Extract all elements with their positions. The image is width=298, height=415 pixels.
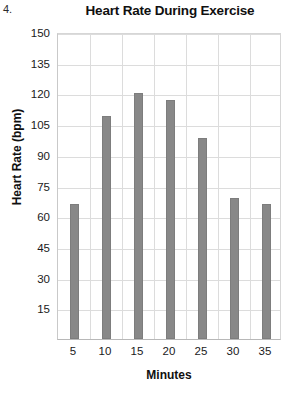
x-tick-label: 5 bbox=[58, 345, 88, 357]
bar bbox=[134, 93, 143, 339]
bar bbox=[102, 116, 111, 339]
y-tick-label: 60 bbox=[6, 211, 50, 223]
y-tick-label: 105 bbox=[6, 119, 50, 131]
x-tick-label: 10 bbox=[90, 345, 120, 357]
x-axis-label: Minutes bbox=[57, 368, 281, 382]
y-tick-label: 150 bbox=[6, 27, 50, 39]
chart-title: Heart Rate During Exercise bbox=[50, 3, 290, 18]
y-tick-label: 15 bbox=[6, 303, 50, 315]
bar bbox=[230, 198, 239, 339]
plot-area bbox=[57, 33, 281, 340]
y-tick-label: 120 bbox=[6, 88, 50, 100]
y-tick-label: 135 bbox=[6, 58, 50, 70]
y-tick-label: 30 bbox=[6, 273, 50, 285]
bar bbox=[70, 204, 79, 339]
bar bbox=[262, 204, 271, 339]
chart-figure: 4. Heart Rate During Exercise Heart Rate… bbox=[0, 0, 298, 415]
x-tick-label: 30 bbox=[218, 345, 248, 357]
bar bbox=[198, 138, 207, 339]
x-tick-label: 35 bbox=[250, 345, 280, 357]
x-tick-label: 25 bbox=[186, 345, 216, 357]
x-tick-label: 20 bbox=[154, 345, 184, 357]
y-tick-label: 45 bbox=[6, 242, 50, 254]
y-tick-label: 75 bbox=[6, 181, 50, 193]
y-tick-label: 90 bbox=[6, 150, 50, 162]
x-tick-label: 15 bbox=[122, 345, 152, 357]
bar-series bbox=[58, 34, 280, 339]
bar bbox=[166, 100, 175, 339]
item-number: 4. bbox=[3, 3, 12, 15]
